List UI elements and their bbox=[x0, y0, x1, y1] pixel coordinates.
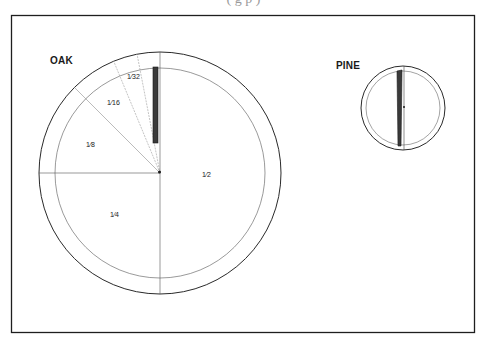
pine-outer-ring bbox=[361, 66, 445, 150]
oak-sector-half-label: 1⁄2 bbox=[202, 171, 211, 178]
pine-core-sample bbox=[397, 70, 402, 146]
oak-center-point bbox=[158, 171, 161, 174]
oak-core-sample bbox=[153, 67, 158, 143]
oak-sector-eighth-label: 1⁄8 bbox=[86, 141, 95, 148]
diagram-canvas bbox=[0, 0, 487, 345]
oak-sector-thirty-second-label: 1⁄32 bbox=[127, 73, 140, 80]
oak-title: OAK bbox=[50, 55, 73, 66]
pine-cross-section bbox=[361, 66, 445, 150]
oak-sector-quarter-label: 1⁄4 bbox=[110, 211, 119, 218]
pine-title: PINE bbox=[336, 60, 360, 71]
oak-cross-section bbox=[39, 52, 281, 294]
figure-frame bbox=[12, 16, 475, 333]
pine-center-point bbox=[403, 106, 405, 108]
pine-inner-ring bbox=[366, 71, 440, 145]
oak-sector-sixteenth-label: 1⁄16 bbox=[107, 99, 120, 106]
